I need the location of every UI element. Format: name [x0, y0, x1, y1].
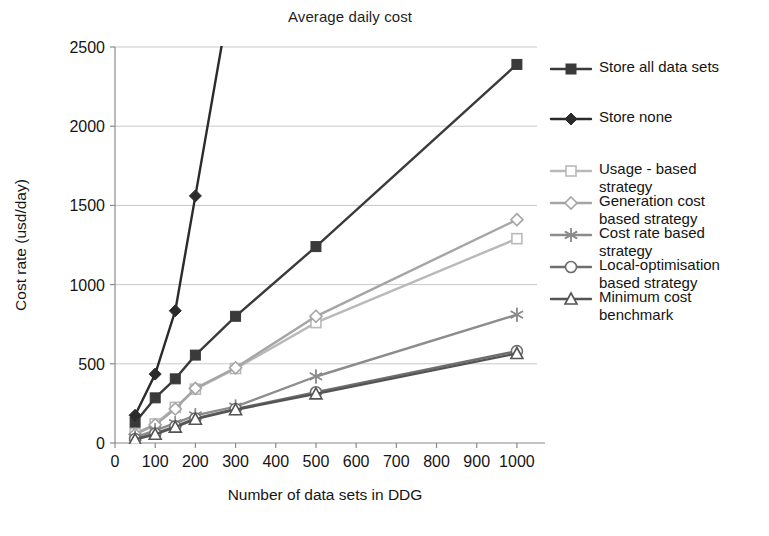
legend-swatch-svg	[549, 192, 593, 214]
legend-item-label: Cost rate based strategy	[599, 223, 705, 259]
legend-item[interactable]: Generation cost based strategy	[549, 191, 705, 227]
marker-open-diamond	[511, 214, 523, 226]
marker-open-diamond	[565, 197, 577, 209]
legend-marker-open-triangle	[549, 288, 593, 310]
legend-swatch-svg	[549, 108, 593, 130]
legend-item-label: Store none	[599, 107, 672, 126]
legend-item-label: Store all data sets	[599, 57, 719, 76]
marker-open-square	[512, 234, 522, 244]
series-line	[135, 64, 517, 422]
x-axis-tick-label: 800	[423, 453, 450, 470]
marker-filled-diamond	[189, 190, 201, 202]
x-axis-tick-label: 600	[343, 453, 370, 470]
axes	[110, 47, 545, 448]
legend-marker-open-circle	[549, 256, 593, 278]
legend-item[interactable]: Store all data sets	[549, 57, 719, 80]
marker-open-square	[566, 166, 576, 176]
chart-figure: Average daily cost 050010001500200025000…	[0, 0, 769, 536]
data-series	[129, 27, 225, 421]
data-series	[129, 308, 523, 445]
x-axis-tick-label: 700	[383, 453, 410, 470]
y-axis-tick-label: 500	[78, 356, 105, 373]
legend-item-label: Usage - based strategy	[599, 159, 697, 195]
y-axis-tick-label: 1500	[69, 197, 105, 214]
marker-filled-diamond	[169, 305, 181, 317]
marker-filled-square	[170, 374, 180, 384]
marker-filled-square	[512, 59, 522, 69]
x-axis-tick-label: 100	[142, 453, 169, 470]
legend-swatch-svg	[549, 256, 593, 278]
legend-marker-asterisk	[549, 224, 593, 246]
grid-lines	[115, 47, 537, 364]
x-axis-tick-label: 200	[182, 453, 209, 470]
legend-item[interactable]: Store none	[549, 107, 672, 130]
legend-item-label: Minimum cost benchmark	[599, 287, 692, 323]
series-line	[135, 239, 517, 434]
series-line	[135, 354, 517, 440]
marker-filled-diamond	[565, 113, 577, 125]
data-series	[129, 214, 523, 441]
x-axis-tick-label: 1000	[499, 453, 535, 470]
legend-swatch-svg	[549, 288, 593, 310]
legend-item-label: Generation cost based strategy	[599, 191, 705, 227]
legend-item[interactable]: Cost rate based strategy	[549, 223, 705, 259]
legend-item[interactable]: Usage - based strategy	[549, 159, 697, 195]
data-series	[130, 234, 522, 439]
series-line	[135, 220, 517, 435]
y-axis-tick-label: 0	[96, 435, 105, 452]
x-axis-tick-label: 400	[262, 453, 289, 470]
y-axis-tick-label: 2000	[69, 118, 105, 135]
y-axis-title: Cost rate (usd/day)	[12, 179, 29, 311]
x-axis-tick-label: 0	[111, 453, 120, 470]
y-axis-tick-label: 2500	[69, 39, 105, 56]
legend-item[interactable]: Local-optimisation based strategy	[549, 255, 720, 291]
marker-filled-square	[566, 64, 576, 74]
marker-asterisk	[310, 369, 322, 383]
legend-swatch-svg	[549, 160, 593, 182]
data-series-layer	[129, 27, 523, 445]
x-axis-tick-label: 900	[463, 453, 490, 470]
legend-swatch-svg	[549, 58, 593, 80]
marker-filled-square	[311, 242, 321, 252]
marker-filled-square	[150, 393, 160, 403]
x-axis-title: Number of data sets in DDG	[228, 486, 423, 503]
legend-item-label: Local-optimisation based strategy	[599, 255, 720, 291]
legend-swatch-svg	[549, 224, 593, 246]
x-axis-tick-label: 300	[222, 453, 249, 470]
x-axis-tick-label: 500	[303, 453, 330, 470]
legend-marker-open-diamond	[549, 192, 593, 214]
marker-filled-square	[231, 311, 241, 321]
series-line	[135, 27, 225, 415]
legend-item[interactable]: Minimum cost benchmark	[549, 287, 692, 323]
marker-open-circle	[566, 262, 577, 273]
legend-marker-open-square	[549, 160, 593, 182]
marker-asterisk	[511, 308, 523, 322]
marker-filled-diamond	[149, 368, 161, 380]
y-axis-tick-label: 1000	[69, 277, 105, 294]
marker-filled-square	[190, 350, 200, 360]
legend-marker-filled-diamond	[549, 108, 593, 130]
legend-marker-filled-square	[549, 58, 593, 80]
